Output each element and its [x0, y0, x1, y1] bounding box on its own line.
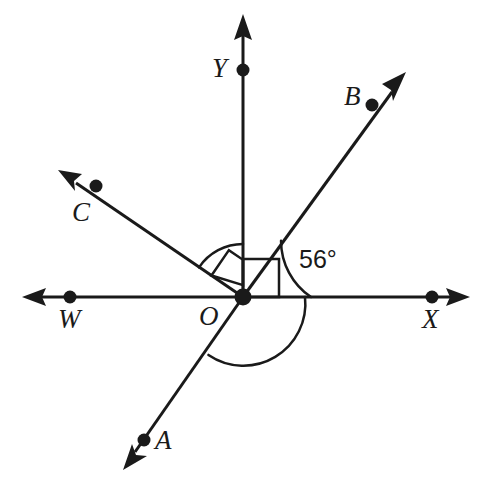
- point-dot-C: [90, 180, 103, 193]
- ray-OC-segment: [76, 183, 243, 297]
- point-label-A: A: [155, 427, 172, 454]
- point-label-W: W: [58, 306, 81, 333]
- point-dot-Y: [237, 64, 250, 77]
- point-label-B: B: [344, 83, 361, 110]
- point-dot-A: [138, 434, 151, 447]
- point-label-X: X: [422, 306, 439, 333]
- arrowhead-B: [382, 72, 406, 101]
- angle-arc-AOX-path: [208, 297, 305, 366]
- point-label-O: O: [199, 303, 219, 330]
- point-dot-W: [64, 291, 77, 304]
- point-label-Y: Y: [212, 55, 227, 82]
- point-label-C: C: [72, 199, 90, 226]
- point-dot-O: [235, 289, 252, 306]
- angle-measure-label-56: 56°: [299, 247, 337, 272]
- arrowhead-C: [58, 170, 82, 191]
- geometry-figure: Y B C W X A O 56°: [0, 0, 494, 488]
- point-dot-B: [366, 99, 379, 112]
- ray-OA-segment: [135, 297, 243, 452]
- angle-arc-AOX: [208, 297, 305, 366]
- arrowhead-A: [123, 444, 147, 470]
- ray-OC: [58, 170, 243, 297]
- point-dot-X: [426, 291, 439, 304]
- geometry-canvas: [0, 0, 494, 488]
